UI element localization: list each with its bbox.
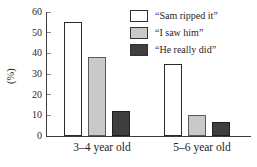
legend-item: “I saw him” <box>130 24 218 41</box>
legend-item: “Sam ripped it” <box>130 7 218 24</box>
legend-swatch <box>130 27 148 39</box>
y-tick-label: 20 <box>12 90 42 100</box>
y-tick-label: 10 <box>12 110 42 120</box>
grouped-bar-chart: (%) 0102030405060 “Sam ripped it”“I saw … <box>0 0 257 167</box>
y-tick-label: 60 <box>12 7 42 17</box>
legend-item: “He really did” <box>130 41 218 58</box>
legend-swatch <box>130 44 148 56</box>
x-axis-category-label: 5–6 year old <box>142 141 257 153</box>
legend-swatch <box>130 10 148 22</box>
legend-label: “I saw him” <box>155 27 203 38</box>
y-tick-label: 50 <box>12 28 42 38</box>
y-tick-label: 40 <box>12 48 42 58</box>
bar-3–4-year-old-series-1 <box>88 57 106 136</box>
legend-label: “Sam ripped it” <box>155 10 218 21</box>
bar-3–4-year-old-series-2 <box>112 111 130 136</box>
legend: “Sam ripped it”“I saw him”“He really did… <box>130 7 218 58</box>
y-tick-label: 30 <box>12 69 42 79</box>
y-tick-label: 0 <box>12 131 42 141</box>
bar-5–6-year-old-series-2 <box>212 122 230 136</box>
bar-5–6-year-old-series-1 <box>188 115 206 136</box>
bar-3–4-year-old-series-0 <box>64 22 82 136</box>
legend-label: “He really did” <box>155 44 216 55</box>
bar-5–6-year-old-series-0 <box>164 64 182 136</box>
